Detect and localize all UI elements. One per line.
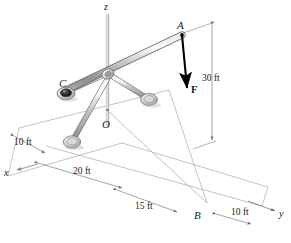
point-label-c: C <box>59 78 66 89</box>
strut-to-right-joint <box>110 75 147 98</box>
force-label-f: F <box>191 85 197 96</box>
joint-right-ball-socket <box>141 94 161 108</box>
point-o-marker <box>107 109 109 111</box>
axis-label-z: z <box>104 2 108 12</box>
dimension-label-10ft-right: 10 ft <box>231 208 249 218</box>
force-vector-f <box>182 35 187 88</box>
point-label-a: A <box>177 20 184 31</box>
dimension-label-30ft: 30 ft <box>202 74 220 84</box>
statics-diagram-figure: z x y A B C O F 30 ft 10 ft 20 ft 15 ft … <box>0 0 291 243</box>
joint-lower-left-ball-socket <box>63 136 84 150</box>
y-axis <box>248 201 275 211</box>
dimension-label-10ft-left: 10 ft <box>14 138 32 148</box>
axis-label-x: x <box>4 168 8 178</box>
dimension-30ft <box>183 22 216 149</box>
ground-plane-lines <box>8 90 268 206</box>
point-label-b: B <box>194 210 201 221</box>
dimension-label-15ft: 15 ft <box>135 202 153 212</box>
axis-label-y: y <box>279 209 283 219</box>
point-label-o: O <box>102 119 110 130</box>
dimension-label-20ft: 20 ft <box>73 167 91 177</box>
x-axis <box>17 164 38 170</box>
